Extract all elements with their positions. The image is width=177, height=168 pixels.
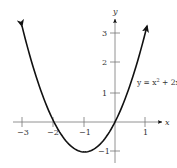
x-axis-label: x	[165, 118, 170, 127]
x-tick-label: −1	[79, 128, 91, 137]
y-tick-label: 1	[102, 89, 107, 98]
y-tick-label: 3	[102, 29, 107, 38]
x-tick-label: −2	[47, 128, 59, 137]
equation-label: y = x2 + 2x	[136, 77, 177, 87]
y-tick-label: 2	[102, 58, 107, 67]
x-tick-label: −3	[17, 128, 29, 137]
x-tick-label: 1	[143, 128, 148, 137]
y-tick-label: −1	[98, 147, 110, 156]
y-axis-label: y	[112, 7, 118, 16]
parabola-graph: x y −3 −2 −1 1 3 2 1 −1 y = x2 + 2x	[0, 0, 177, 168]
